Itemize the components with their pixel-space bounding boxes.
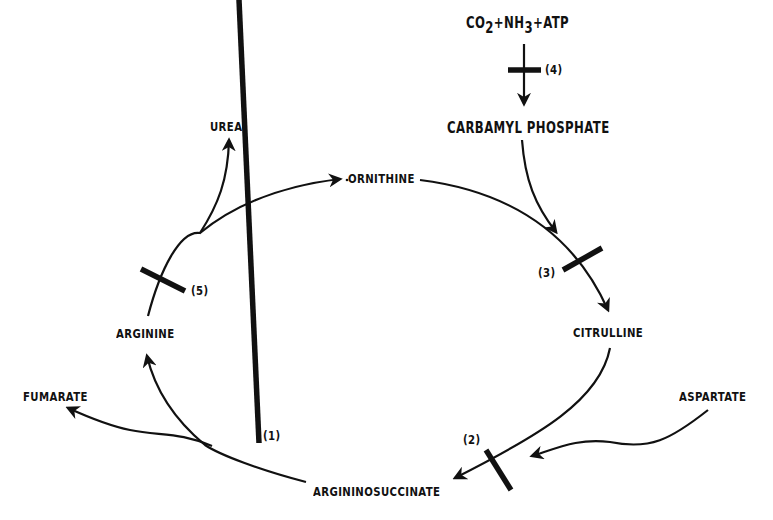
edge-reactants-to-carbamyl-phosphate: [508, 44, 541, 104]
reactants-label: CO2+NH3+ATP: [466, 15, 569, 31]
node-citrulline: CITRULLINE: [573, 325, 643, 341]
node-carbamyl-phosphate: CARBAMYL PHOSPHATE: [447, 120, 610, 136]
node-arginine: ARGININE: [116, 326, 175, 342]
block-label-1: (1): [263, 428, 281, 444]
block-label-3: (3): [538, 265, 556, 281]
node-aspartate: ASPARTATE: [679, 389, 746, 405]
block-bar-1: [239, 0, 259, 443]
edge-citrulline-to-argininosuccinate: [455, 348, 708, 490]
edge-carbamyl-phosphate-to-cycle: [522, 140, 556, 232]
edge-ornithine-to-citrulline: [420, 180, 608, 310]
node-fumarate: FUMARATE: [23, 389, 88, 405]
node-urea: UREA: [210, 119, 242, 135]
urea-cycle-diagram: [0, 0, 773, 520]
block-label-4: (4): [545, 62, 563, 78]
node-argininosuccinate: ARGININOSUCCINATE: [313, 484, 440, 500]
edge-argininosuccinate-to-arginine: [68, 0, 306, 482]
node-ornithine: ORNITHINE: [348, 171, 415, 187]
block-label-5: (5): [191, 283, 209, 299]
block-label-2: (2): [463, 432, 481, 448]
